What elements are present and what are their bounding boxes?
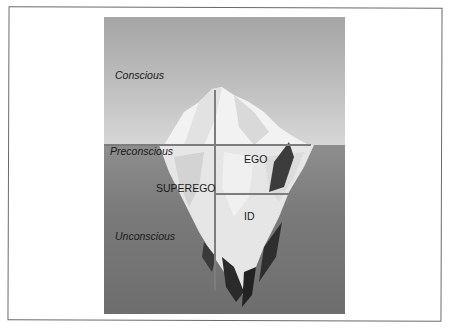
iceberg-figure: Conscious Preconscious Unconscious EGO S… — [104, 17, 345, 314]
label-unconscious: Unconscious — [115, 230, 175, 242]
label-conscious: Conscious — [115, 69, 164, 81]
label-id: ID — [244, 210, 255, 222]
label-superego: SUPEREGO — [156, 182, 216, 194]
ego-id-divider — [214, 193, 290, 195]
label-ego: EGO — [244, 153, 267, 165]
iceberg-illustration — [104, 17, 345, 314]
label-preconscious: Preconscious — [110, 145, 173, 157]
